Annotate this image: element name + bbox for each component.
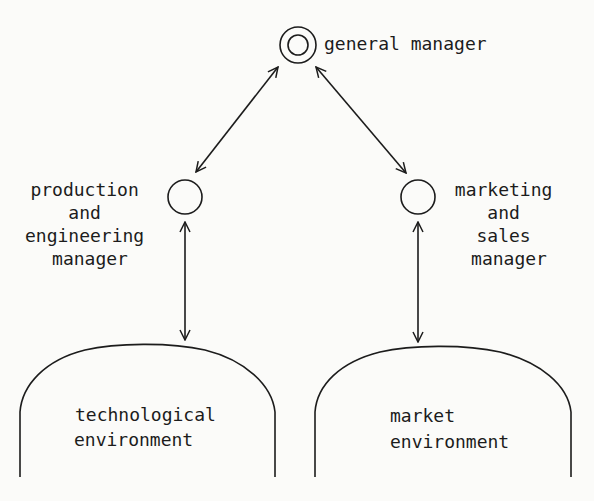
market-environment-node: market environment [315,346,571,477]
circle-icon [168,180,202,214]
circle-icon [401,180,435,214]
org-diagram: general manager production and engineeri… [0,0,594,501]
market-environment-label: market environment [390,405,509,452]
general-manager-node: general manager [280,27,487,63]
general-manager-label: general manager [324,33,487,54]
arrow-gm-to-marketing [316,67,406,173]
outer-circle-icon [280,27,316,63]
technological-environment-label: technological environment [74,404,227,450]
technological-environment-node: technological environment [20,344,275,477]
production-manager-node: production and engineering manager [25,179,202,269]
inner-circle-icon [288,35,308,55]
arrow-gm-to-production [196,67,278,172]
marketing-manager-label: marketing and sales manager [455,179,563,269]
production-manager-label: production and engineering manager [25,179,155,269]
marketing-manager-node: marketing and sales manager [401,179,563,269]
